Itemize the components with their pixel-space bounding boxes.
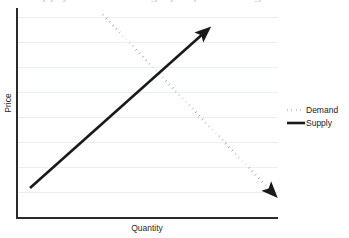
solid-line-icon bbox=[286, 118, 306, 128]
demand-curve bbox=[103, 15, 272, 192]
dotted-line-icon bbox=[286, 105, 306, 115]
legend-label-demand: Demand bbox=[306, 105, 338, 115]
chart-legend: Demand Supply bbox=[286, 103, 349, 129]
legend-item-demand[interactable]: Demand bbox=[286, 103, 349, 116]
legend-item-supply[interactable]: Supply bbox=[286, 116, 349, 129]
supply-curve bbox=[30, 32, 205, 188]
y-axis-title: Price bbox=[3, 81, 13, 125]
x-axis-title: Quantity bbox=[16, 223, 278, 233]
supply-demand-chart: Supply and demand graph: price rising bbox=[0, 0, 349, 238]
legend-label-supply: Supply bbox=[306, 118, 332, 128]
